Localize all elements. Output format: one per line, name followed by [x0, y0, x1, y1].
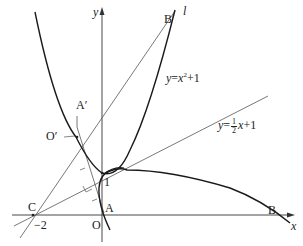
line-l-label: l: [183, 5, 186, 17]
reflected-curve: [99, 169, 290, 230]
eq-rest: +1: [187, 71, 200, 85]
point-c: [32, 214, 35, 217]
eq-rest: +1: [243, 118, 256, 132]
y-axis-label: y: [93, 6, 98, 18]
eq-sign: =: [223, 118, 230, 132]
fraction: 12: [231, 118, 237, 135]
value-one-label: 1: [104, 176, 110, 188]
line-l: [20, 11, 175, 238]
parabola-curve: [35, 10, 175, 174]
x-axis-arrow-icon: [287, 213, 295, 218]
point-c-label: C: [28, 201, 36, 213]
point-o-prime: [76, 136, 79, 139]
origin-label: O: [92, 219, 101, 231]
point-a-label: A: [105, 202, 114, 214]
y-axis-arrow-icon: [100, 7, 105, 15]
diagram-graphics: [0, 0, 303, 246]
point-0-1: [101, 172, 104, 175]
line-equation-label: y=12x+1: [218, 118, 256, 135]
fraction-denominator: 2: [231, 127, 237, 135]
x-axis-label: x: [291, 220, 296, 232]
tick-mark: [92, 199, 97, 201]
point-b-label: B: [268, 204, 276, 216]
o-prime-pointer: [64, 136, 75, 137]
parabola-equation-label: y=x2+1: [166, 72, 200, 84]
point-o-prime-label: O′: [46, 130, 57, 142]
value-minus-two-label: −2: [34, 219, 47, 231]
tick-mark: [80, 168, 85, 170]
point-b-prime-label: B′: [164, 13, 175, 25]
line-half-x-plus-1: [14, 96, 268, 226]
point-a-prime-label: A′: [76, 99, 87, 111]
math-diagram: y x O A A′ B B′ l C O′ 1 −2 y=x2+1 y=12x…: [0, 0, 303, 246]
